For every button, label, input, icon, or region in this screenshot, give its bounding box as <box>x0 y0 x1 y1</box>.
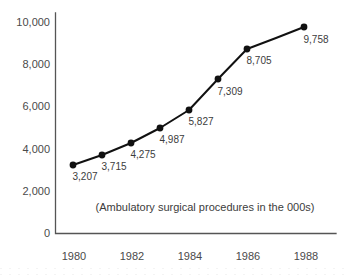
x-tick-label: 1982 <box>120 250 144 262</box>
data-point <box>244 46 251 53</box>
data-point-label: 3,715 <box>101 161 126 172</box>
y-tick-label: 4,000 <box>22 143 50 155</box>
data-point-label: 8,705 <box>246 55 271 66</box>
data-point-label: 3,207 <box>72 171 97 182</box>
chart-caption: (Ambulatory surgical procedures in the 0… <box>96 201 315 213</box>
x-tick-label: 1980 <box>62 250 86 262</box>
data-point <box>215 76 222 83</box>
data-point-label: 5,827 <box>188 116 213 127</box>
data-point-label: 7,309 <box>217 86 242 97</box>
data-point <box>157 125 164 132</box>
x-tick-label: 1986 <box>236 250 260 262</box>
chart-canvas: 10,000 8,000 6,000 4,000 2,000 0 3,207 3… <box>0 0 350 279</box>
data-point <box>128 140 135 147</box>
data-point <box>70 162 77 169</box>
x-tick-label: 1988 <box>294 250 318 262</box>
data-point <box>99 152 106 159</box>
y-tick-label: 6,000 <box>22 100 50 112</box>
y-tick-label: 10,000 <box>16 16 50 28</box>
y-tick-label: 2,000 <box>22 185 50 197</box>
data-point-label: 4,275 <box>130 149 155 160</box>
scan-artifact <box>0 268 350 269</box>
x-tick-label: 1984 <box>178 250 202 262</box>
data-point <box>301 24 308 31</box>
y-tick-label: 8,000 <box>22 58 50 70</box>
y-tick-label: 0 <box>44 227 50 239</box>
data-point-label: 4,987 <box>159 134 184 145</box>
line-chart: 10,000 8,000 6,000 4,000 2,000 0 3,207 3… <box>0 0 350 279</box>
scan-artifact <box>0 274 350 275</box>
data-point-label: 9,758 <box>303 34 328 45</box>
data-point <box>186 107 193 114</box>
